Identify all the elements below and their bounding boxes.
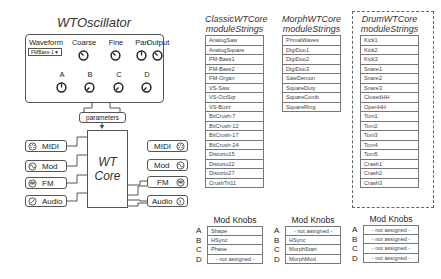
list-item: PrimalWaves bbox=[283, 36, 341, 46]
mod-knob-value: - not assigned - bbox=[363, 244, 419, 254]
list-item: SawDemon bbox=[283, 74, 341, 84]
classic-title-line2: moduleStrings bbox=[205, 24, 264, 34]
output-knob[interactable] bbox=[152, 50, 163, 61]
list-item: VS-Buzz bbox=[206, 102, 264, 112]
list-item: Distorto22 bbox=[206, 159, 264, 169]
mod-knob-value: - not assigned - bbox=[363, 225, 419, 235]
oscillator-panel: Waveform FMBass-1 ▼ Coarse Fine Pan Outp… bbox=[25, 34, 164, 103]
mod-knob-letter: B bbox=[274, 236, 285, 245]
output-knob-group: Output bbox=[145, 38, 171, 65]
mod-wave-icon bbox=[176, 161, 185, 170]
coarse-knob[interactable] bbox=[78, 50, 89, 61]
list-item: FM-Organ bbox=[206, 74, 264, 84]
mod-knobs-morph: Mod Knobs A- not assigned - BHSync CMorp… bbox=[274, 215, 341, 264]
knob-c[interactable] bbox=[113, 82, 124, 93]
mod-knob-letter: A bbox=[196, 226, 207, 235]
drum-title-line2: moduleStrings bbox=[360, 24, 419, 34]
classic-table-title: ClassicWTCore moduleStrings bbox=[205, 14, 264, 34]
list-item: DigiDoo3 bbox=[283, 64, 341, 74]
core-title-line2: Core bbox=[94, 169, 120, 183]
mod-knobs-title: Mod Knobs bbox=[196, 215, 263, 225]
knob-a[interactable] bbox=[56, 82, 67, 93]
output-pill-midi: MIDI bbox=[147, 140, 188, 152]
waveform-dropdown[interactable]: FMBass-1 ▼ bbox=[28, 48, 62, 56]
list-item: BitCrush-7 bbox=[206, 112, 264, 122]
parameters-label: parameters bbox=[86, 114, 119, 121]
morph-wtcore-table: MorphWTCore moduleStrings PrimalWaves Di… bbox=[282, 14, 341, 112]
list-item: Snare1 bbox=[361, 64, 419, 74]
mod-knob-row: AShape bbox=[196, 226, 263, 236]
list-item: SquareComb bbox=[283, 93, 341, 103]
mod-knob-value: - not assigned - bbox=[207, 255, 263, 265]
list-item: Crash3 bbox=[361, 178, 419, 188]
knob-d[interactable] bbox=[141, 82, 152, 93]
output-label-audio: Audio bbox=[148, 197, 176, 206]
mod-knob-letter: B bbox=[196, 236, 207, 245]
fm-icon bbox=[28, 179, 37, 188]
list-item: Crash1 bbox=[361, 159, 419, 169]
input-label-audio: Audio bbox=[37, 197, 66, 206]
list-item: Tom3 bbox=[361, 131, 419, 141]
mod-knob-letter: C bbox=[274, 245, 285, 254]
coarse-knob-group: Coarse bbox=[67, 38, 101, 65]
list-item: DigiDoo1 bbox=[283, 45, 341, 55]
waveform-label: Waveform bbox=[28, 38, 64, 47]
output-pill-mod: Mod bbox=[147, 159, 188, 171]
list-item: Tom2 bbox=[361, 121, 419, 131]
classic-module-list: AnalogSaw AnalogSquare FM-Bass1 FM-Bass2… bbox=[205, 35, 264, 188]
list-item: VS-Saw bbox=[206, 83, 264, 93]
output-pill-audio: Audio bbox=[147, 195, 188, 207]
classic-title-line1: ClassicWTCore bbox=[205, 14, 264, 24]
mod-knob-row: D- not assigned - bbox=[196, 255, 263, 265]
input-label-midi: MIDI bbox=[37, 142, 66, 151]
mod-knob-letter: A bbox=[352, 225, 363, 234]
mod-knob-value: Shape bbox=[207, 226, 263, 236]
list-item: DigiDoo2 bbox=[283, 55, 341, 65]
mod-knobs-classic: Mod Knobs AShape BHSync CPhase D- not as… bbox=[196, 215, 263, 264]
input-pill-mod: Mod bbox=[25, 160, 67, 172]
list-item: BitCrush-12 bbox=[206, 121, 264, 131]
list-item: ClosedHH bbox=[361, 93, 419, 103]
dropdown-arrow-icon: ▼ bbox=[54, 48, 59, 56]
input-pill-midi: MIDI bbox=[25, 140, 67, 152]
list-item: SquareDuty bbox=[283, 83, 341, 93]
mod-knob-letter: D bbox=[196, 255, 207, 264]
mod-knob-row: DMorphMod bbox=[274, 255, 341, 265]
waveform-selected: FMBass-1 bbox=[31, 48, 54, 56]
mod-knob-row: A- not assigned - bbox=[352, 225, 419, 235]
mod-knob-letter: C bbox=[196, 245, 207, 254]
list-item: Distorto27 bbox=[206, 169, 264, 179]
mod-knobs-title: Mod Knobs bbox=[274, 215, 341, 225]
fine-knob[interactable] bbox=[110, 50, 121, 61]
input-label-mod: Mod bbox=[37, 162, 66, 171]
drum-title-line1: DrumWTCore bbox=[360, 14, 419, 24]
mod-knob-letter: C bbox=[352, 244, 363, 253]
list-item: BitCrush-17 bbox=[206, 131, 264, 141]
morph-module-list: PrimalWaves DigiDoo1 DigiDoo2 DigiDoo3 S… bbox=[282, 35, 341, 112]
wt-core-box: WT Core bbox=[87, 130, 128, 208]
output-label-midi: MIDI bbox=[148, 142, 176, 151]
list-item: VS-OctSqr bbox=[206, 93, 264, 103]
midi-icon bbox=[176, 142, 185, 151]
list-item: Kick1 bbox=[361, 36, 419, 46]
list-item: FM-Bass1 bbox=[206, 55, 264, 65]
list-item: Tom4 bbox=[361, 140, 419, 150]
mod-knob-value: HSync bbox=[285, 236, 341, 246]
list-item: Snare3 bbox=[361, 83, 419, 93]
audio-icon bbox=[176, 197, 185, 206]
knob-b[interactable] bbox=[84, 82, 95, 93]
knob-d-label: D bbox=[130, 70, 164, 79]
list-item: SquareRing bbox=[283, 102, 341, 112]
output-label-fm: FM bbox=[148, 178, 176, 187]
list-item: OpenHH bbox=[361, 102, 419, 112]
midi-icon bbox=[28, 142, 37, 151]
coarse-label: Coarse bbox=[67, 38, 101, 47]
classic-wtcore-table: ClassicWTCore moduleStrings AnalogSaw An… bbox=[205, 14, 264, 188]
input-label-fm: FM bbox=[37, 179, 66, 188]
morph-table-title: MorphWTCore moduleStrings bbox=[282, 14, 341, 34]
knob-d-group: D bbox=[130, 70, 164, 97]
list-item: BitCrush-24 bbox=[206, 140, 264, 150]
mod-knobs-drum: Mod Knobs A- not assigned - B- not assig… bbox=[352, 214, 419, 263]
list-item: Snare2 bbox=[361, 74, 419, 84]
list-item: Kick2 bbox=[361, 45, 419, 55]
